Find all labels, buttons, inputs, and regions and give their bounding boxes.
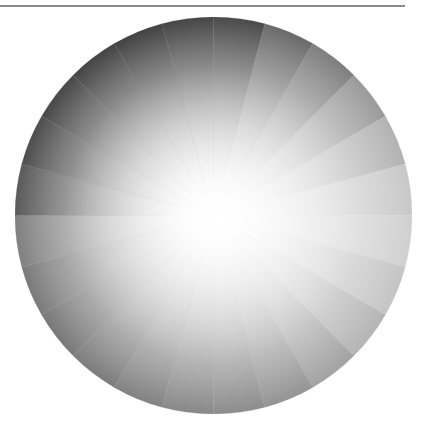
top-divider-line: [0, 5, 405, 7]
grayscale-wheel: [15, 17, 412, 414]
wheel-graphic: [15, 17, 412, 414]
center-glow: [15, 17, 412, 414]
